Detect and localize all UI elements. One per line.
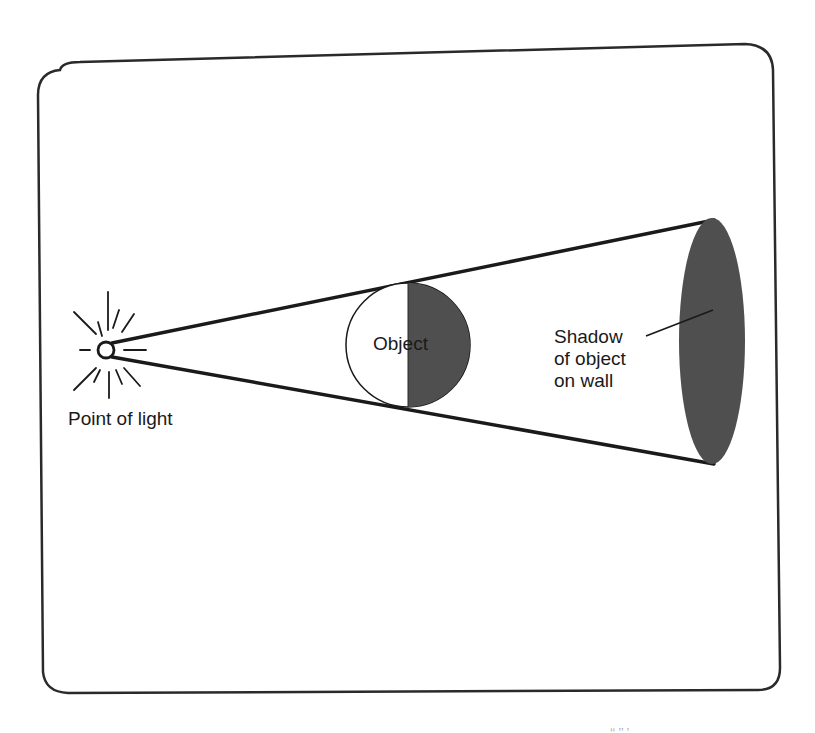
shadow-label-line-1: Shadow [554,326,626,348]
shadow-label: Shadow of object on wall [554,326,626,392]
cropped-text-fragment: ‘‘ ’’ ’ [610,726,629,733]
object-label: Object [373,333,428,355]
shadow-label-line-2: of object [554,348,626,370]
light-source-icon [74,292,146,398]
shadow-ellipse [679,218,745,464]
light-source-label: Point of light [68,408,173,430]
shadow-label-line-3: on wall [554,370,626,392]
shadow-diagram [0,0,815,733]
